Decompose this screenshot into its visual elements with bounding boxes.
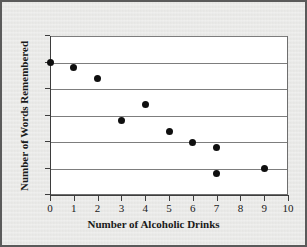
- x-tick-label-0: 0: [37, 203, 63, 214]
- gridline-y-20: [51, 89, 287, 90]
- data-point: [166, 128, 173, 135]
- data-point: [213, 144, 220, 151]
- y-axis-title: Number of Words Remembered: [18, 21, 30, 211]
- scatter-plot-figure: 051015202530 012345678910 Number of Alco…: [0, 0, 307, 247]
- x-tick-4: [145, 196, 146, 201]
- x-tick-label-6: 6: [180, 203, 206, 214]
- x-tick-0: [50, 196, 51, 201]
- x-tick-2: [98, 196, 99, 201]
- x-tick-6: [193, 196, 194, 201]
- x-tick-10: [288, 196, 289, 201]
- x-tick-label-1: 1: [61, 203, 87, 214]
- gridline-y-25: [51, 63, 287, 64]
- x-tick-label-4: 4: [132, 203, 158, 214]
- gridline-y-10: [51, 142, 287, 143]
- x-tick-3: [121, 196, 122, 201]
- y-tick-0: [45, 194, 50, 195]
- y-tick-15: [45, 115, 50, 116]
- x-tick-7: [217, 196, 218, 201]
- gridline-y-15: [51, 116, 287, 117]
- plot-area: [50, 36, 288, 195]
- x-tick-label-5: 5: [156, 203, 182, 214]
- y-tick-20: [45, 88, 50, 89]
- x-tick-8: [240, 196, 241, 201]
- y-tick-30: [45, 35, 50, 36]
- x-tick-5: [169, 196, 170, 201]
- x-tick-label-3: 3: [108, 203, 134, 214]
- x-tick-label-9: 9: [251, 203, 277, 214]
- data-point: [94, 75, 101, 82]
- x-tick-label-2: 2: [85, 203, 111, 214]
- data-point: [47, 59, 54, 66]
- gridline-y-30: [51, 36, 287, 37]
- x-tick-label-10: 10: [275, 203, 301, 214]
- x-tick-1: [74, 196, 75, 201]
- y-tick-10: [45, 141, 50, 142]
- x-axis-title: Number of Alcoholic Drinks: [2, 218, 305, 230]
- gridline-y-5: [51, 169, 287, 170]
- x-tick-label-7: 7: [204, 203, 230, 214]
- y-tick-5: [45, 168, 50, 169]
- data-point: [261, 165, 268, 172]
- x-tick-9: [264, 196, 265, 201]
- x-tick-label-8: 8: [227, 203, 253, 214]
- data-point: [189, 139, 196, 146]
